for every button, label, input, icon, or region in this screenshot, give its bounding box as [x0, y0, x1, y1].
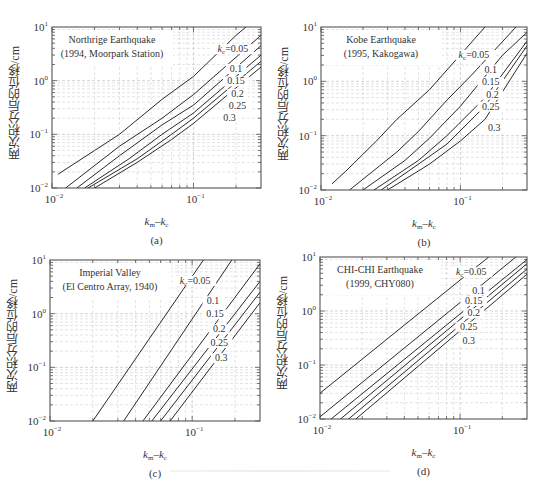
chart-subtitle: (1994, Moorpark Station): [61, 48, 164, 60]
y-tick-label: 10−1: [28, 360, 47, 373]
chart-svg: kc=0.050.10.150.20.250.3Kobe Earthquake(…: [321, 27, 527, 190]
chart-title: Northrige Earthquake: [69, 34, 156, 45]
x-tick-label: 10−2: [45, 192, 64, 205]
series-label: 0.25: [460, 321, 478, 332]
series-label: 0.2: [231, 88, 244, 99]
y-tick-label: 100: [34, 74, 49, 87]
series-label: 0.3: [215, 352, 228, 363]
y-axis-label: 两次积分后的位移/cm: [274, 276, 291, 390]
panel-label: (a): [150, 234, 163, 247]
y-axis-label: 两次积分后的位移/cm: [275, 47, 292, 161]
x-axis-label: km–kc: [412, 217, 436, 231]
chart-svg: kc=0.050.10.150.20.250.3CHI-CHI Earthqua…: [320, 257, 527, 419]
series-label: 0.3: [462, 335, 475, 346]
chart-title: Kobe Earthquake: [346, 34, 416, 45]
y-tick-label: 101: [302, 250, 317, 263]
series-label: 0.25: [229, 100, 247, 111]
x-axis-label: km–kc: [145, 215, 169, 229]
x-tick-label: 10−1: [185, 425, 204, 438]
x-tick-label: 10−1: [453, 194, 472, 207]
x-axis-label: km–kc: [143, 448, 167, 462]
series-label: 0.3: [488, 122, 501, 133]
y-tick-label: 101: [32, 253, 47, 266]
x-axis-label: km–kc: [412, 446, 436, 460]
chart-subtitle: (El Centro Array, 1940): [63, 281, 158, 293]
chart-title: CHI-CHI Earthquake: [337, 264, 423, 275]
series-label: 0.25: [210, 337, 228, 348]
panel-label: (b): [418, 236, 431, 249]
chart-title: Imperial Valley: [79, 267, 141, 278]
series-line-0_3: [388, 53, 528, 190]
panel-label: (d): [417, 465, 430, 478]
series-line-0_3: [356, 274, 527, 419]
x-tick-label: 10−1: [186, 192, 205, 205]
series-label: 0.1: [207, 295, 220, 306]
x-tick-label: 10−2: [313, 423, 332, 436]
series-label: 0.2: [486, 89, 499, 100]
series-label: 0.15: [482, 76, 500, 87]
y-tick-label: 101: [303, 20, 318, 33]
series-label: 0.15: [206, 308, 224, 319]
x-tick-label: 10−1: [453, 423, 472, 436]
series-label: 0.15: [465, 295, 483, 306]
y-tick-label: 10−1: [299, 129, 318, 142]
chart-svg: kc=0.050.10.150.20.250.3Imperial Valley(…: [50, 260, 260, 421]
chart-panel-d: kc=0.050.10.150.20.250.3CHI-CHI Earthqua…: [320, 257, 527, 419]
chart-panel-a: kc=0.050.10.150.20.250.3Northrige Earthq…: [52, 27, 261, 188]
series-label: 0.1: [472, 285, 485, 296]
y-tick-label: 100: [302, 304, 317, 317]
chart-panel-c: kc=0.050.10.150.20.250.3Imperial Valley(…: [50, 260, 260, 421]
chart-svg: kc=0.050.10.150.20.250.3Northrige Earthq…: [52, 27, 261, 188]
y-tick-label: 100: [32, 307, 47, 320]
y-axis-label: 两次积分后的位移/cm: [6, 46, 23, 160]
y-axis-label: 两次积分后的位移/cm: [4, 279, 21, 393]
y-tick-label: 101: [34, 20, 49, 33]
chart-subtitle: (1995, Kakogawa): [344, 48, 418, 60]
series-label: 0.2: [213, 323, 226, 334]
y-tick-label: 10−1: [30, 127, 49, 140]
series-label: 0.3: [223, 112, 236, 123]
series-label: 0.1: [485, 64, 498, 75]
x-tick-label: 10−2: [43, 425, 62, 438]
series-label: 0.25: [482, 101, 500, 112]
panel-label: (c): [149, 467, 162, 480]
y-tick-label: 100: [303, 74, 318, 87]
chart-panel-b: kc=0.050.10.150.20.250.3Kobe Earthquake(…: [321, 27, 527, 190]
chart-subtitle: (1999, CHY080): [346, 278, 414, 290]
x-tick-label: 10−2: [314, 194, 333, 207]
series-label: 0.1: [230, 63, 243, 74]
y-tick-label: 10−1: [298, 358, 317, 371]
figure-caption-faded: [170, 470, 390, 472]
series-label: 0.2: [467, 307, 480, 318]
series-label: 0.15: [227, 75, 245, 86]
